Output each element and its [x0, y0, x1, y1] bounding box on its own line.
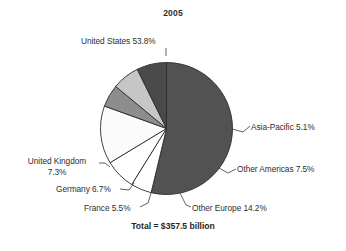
slice-label-united-kingdom-line1: United Kingdom	[28, 156, 86, 166]
slice-label-other-europe: Other Europe 14.2%	[192, 203, 267, 214]
slice-label-united-kingdom-line2: 7.3%	[48, 167, 67, 177]
leader-line-other-europe	[180, 193, 191, 207]
slice-label-asia-pacific: Asia-Pacific 5.1%	[251, 122, 315, 133]
slice-label-other-americas: Other Americas 7.5%	[237, 164, 314, 175]
slice-label-united-kingdom: United Kingdom 7.3%	[11, 156, 103, 177]
leader-line-other-americas	[219, 168, 236, 173]
pie-slice-group	[101, 63, 233, 195]
leader-line-asia-pacific	[232, 126, 250, 132]
pie-chart-figure: 2005 United States 53.8% Asia-Pacific 5.…	[0, 0, 346, 251]
slice-label-france: France 5.5%	[84, 203, 131, 214]
slice-label-germany: Germany 6.7%	[56, 184, 111, 195]
chart-total-label: Total = $357.5 billion	[0, 221, 346, 231]
slice-label-united-states: United States 53.8%	[81, 36, 156, 47]
